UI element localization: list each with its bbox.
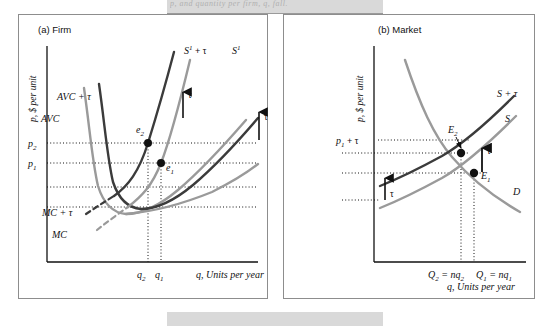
- panel-b-tau-label-1: τ: [390, 189, 394, 199]
- panel-a-y-tick-p2: p2: [27, 138, 37, 152]
- figure-root: p, and quantity per firm, q, fall. (a) F…: [0, 0, 550, 326]
- label-mc: MC: [51, 229, 67, 240]
- point-E2: [457, 149, 465, 157]
- panel-a-tau-label-1: τ: [188, 90, 192, 100]
- panel-b-x-axis-label: q, Units per year: [447, 281, 515, 292]
- panel-b-y-axis-label: p, $ per unit: [355, 75, 365, 123]
- point-e1-label: e1: [166, 162, 174, 176]
- point-E1-label: E1: [480, 170, 491, 184]
- panel-a-y-tick-p1: p1: [27, 158, 37, 172]
- label-s1: S1: [232, 44, 241, 56]
- label-S: S: [505, 113, 510, 124]
- label-avc-tau: AVC + τ: [56, 91, 91, 102]
- label-S-tau: S + τ: [497, 88, 518, 99]
- label-D: D: [512, 186, 521, 197]
- panel-a-y-axis-label: p, $ per unit: [28, 75, 38, 123]
- point-E1: [470, 169, 478, 177]
- curve-mc-tau-dashed: [86, 196, 114, 214]
- point-e2: [144, 139, 152, 147]
- point-e1: [157, 159, 165, 167]
- label-s1-tau: S1 + τ: [184, 44, 207, 56]
- panel-b-y-tick: p1 + τ: [335, 135, 359, 149]
- label-avc: AVC: [40, 113, 60, 124]
- panel-a-tau-label-2: τ: [264, 112, 268, 122]
- panel-b-guides: [342, 140, 482, 262]
- panel-a-guides: [47, 143, 258, 262]
- panel-a-x-tick-q2: q2: [137, 269, 146, 283]
- panel-a-x-tick-q1: q1: [155, 269, 164, 283]
- point-E2-label: E2: [447, 124, 458, 138]
- panel-market-title: (b) Market: [378, 24, 421, 35]
- panel-a-x-axis-label: q, Units per year: [196, 269, 264, 280]
- point-e2-label: e2: [136, 124, 144, 138]
- figure-svg: p, $ per unit τ: [0, 0, 550, 326]
- panel-b-tau-label-2: τ: [487, 146, 491, 156]
- label-mc-tau: MC + τ: [41, 207, 73, 218]
- curve-s1-tau: [114, 52, 174, 196]
